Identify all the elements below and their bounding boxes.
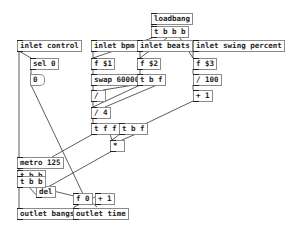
object-div-100[interactable]: / 100 xyxy=(193,74,222,86)
object-metro[interactable]: metro 125 xyxy=(17,157,64,169)
object-multiply[interactable]: * xyxy=(110,140,125,152)
object-inlet-control[interactable]: inlet control xyxy=(17,40,82,52)
object-float-3[interactable]: f $3 xyxy=(193,58,217,70)
object-inlet-beats[interactable]: inlet beats xyxy=(137,40,193,52)
object-trigger-bbb[interactable]: t b b b xyxy=(151,26,189,38)
object-trigger-ff[interactable]: t f f xyxy=(91,123,120,135)
object-loadbang[interactable]: loadbang xyxy=(151,13,193,25)
message-notch xyxy=(39,74,45,86)
object-float-counter[interactable]: f 0 xyxy=(73,193,93,205)
object-plus-1-a[interactable]: + 1 xyxy=(193,90,213,102)
object-outlet-bangs[interactable]: outlet bangs xyxy=(17,208,77,220)
object-float-2[interactable]: f $2 xyxy=(137,58,161,70)
object-outlet-time[interactable]: outlet time xyxy=(73,208,129,220)
object-swap[interactable]: swap 60000 xyxy=(91,74,142,86)
object-trigger-bb-2-visible[interactable]: t b b xyxy=(17,176,46,188)
object-inlet-swing[interactable]: inlet swing percent xyxy=(193,40,285,52)
message-zero[interactable]: 0 xyxy=(30,74,40,86)
object-trigger-bf-2[interactable]: t b f xyxy=(119,123,148,135)
object-plus-1-b[interactable]: + 1 xyxy=(95,193,115,205)
object-sel-0[interactable]: sel 0 xyxy=(30,58,59,70)
pd-patch-canvas[interactable]: loadbang t b b b inlet control inlet bpm… xyxy=(0,0,292,232)
object-div[interactable]: / xyxy=(91,90,106,102)
cord xyxy=(52,134,93,157)
object-inlet-bpm[interactable]: inlet bpm xyxy=(91,40,138,52)
cord xyxy=(19,51,31,58)
object-div-4[interactable]: / 4 xyxy=(91,107,111,119)
object-trigger-bf-1[interactable]: t b f xyxy=(137,74,166,86)
object-float-1[interactable]: f $1 xyxy=(91,58,115,70)
message-zero-text: 0 xyxy=(33,75,38,84)
